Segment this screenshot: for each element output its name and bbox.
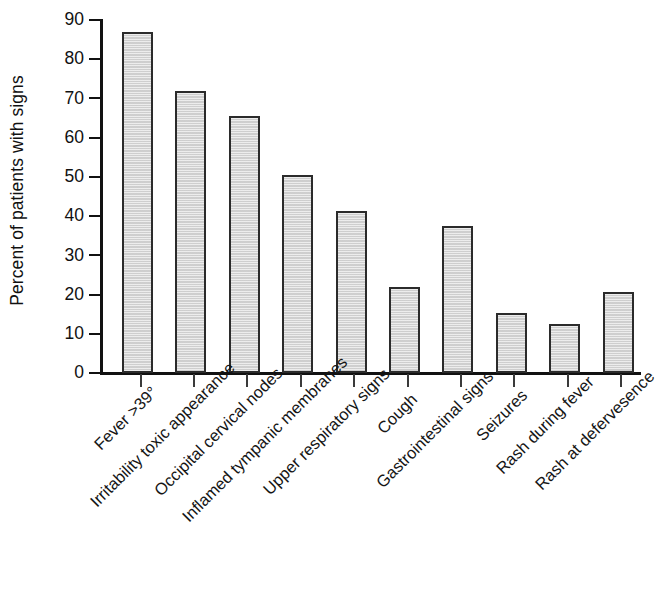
y-tick-label: 40 bbox=[44, 207, 84, 225]
y-tick-mark bbox=[89, 137, 100, 139]
y-tick-mark bbox=[89, 176, 100, 178]
x-tick-mark bbox=[193, 374, 195, 387]
bar bbox=[175, 91, 206, 373]
bar bbox=[122, 32, 153, 373]
x-tick-mark bbox=[620, 374, 622, 387]
y-tick-label: 0 bbox=[44, 364, 84, 382]
y-tick-mark bbox=[89, 97, 100, 99]
y-tick-label-wrapper: 40 bbox=[40, 207, 84, 225]
bar bbox=[603, 292, 634, 373]
bar bbox=[549, 324, 580, 373]
y-tick-label-wrapper: 80 bbox=[40, 50, 84, 68]
x-tick-mark bbox=[567, 374, 569, 387]
bar bbox=[336, 211, 367, 373]
x-tick-mark bbox=[140, 374, 142, 387]
y-tick-label-wrapper: 90 bbox=[40, 11, 84, 29]
y-tick-mark bbox=[89, 215, 100, 217]
y-tick-label: 10 bbox=[44, 325, 84, 343]
y-tick-label-wrapper: 20 bbox=[40, 286, 84, 304]
y-tick-label: 80 bbox=[44, 50, 84, 68]
y-tick-label-wrapper: 0 bbox=[40, 364, 84, 382]
y-tick-label-wrapper: 10 bbox=[40, 325, 84, 343]
y-tick-mark bbox=[89, 254, 100, 256]
bar bbox=[442, 226, 473, 373]
x-tick-mark bbox=[300, 374, 302, 387]
y-tick-label-wrapper: 70 bbox=[40, 89, 84, 107]
bar bbox=[496, 313, 527, 373]
y-tick-label-wrapper: 60 bbox=[40, 129, 84, 147]
y-tick-label: 70 bbox=[44, 90, 84, 108]
y-tick-mark bbox=[89, 294, 100, 296]
bar bbox=[229, 116, 260, 373]
y-tick-mark bbox=[89, 19, 100, 21]
y-tick-label: 60 bbox=[44, 129, 84, 147]
bar bbox=[389, 287, 420, 373]
x-tick-mark bbox=[353, 374, 355, 387]
x-tick-mark bbox=[460, 374, 462, 387]
y-tick-mark bbox=[89, 372, 100, 374]
y-tick-label-wrapper: 50 bbox=[40, 168, 84, 186]
x-axis-label: Rash during fever bbox=[493, 373, 597, 477]
x-tick-mark bbox=[513, 374, 515, 387]
bar bbox=[282, 175, 313, 373]
x-axis-label: Cough bbox=[374, 390, 420, 436]
y-tick-label: 50 bbox=[44, 168, 84, 186]
y-axis-ticks: 0102030405060708090 bbox=[0, 0, 100, 380]
y-tick-label: 20 bbox=[44, 286, 84, 304]
x-tick-mark bbox=[246, 374, 248, 387]
bars-group bbox=[100, 20, 641, 373]
y-tick-mark bbox=[89, 58, 100, 60]
y-tick-label: 90 bbox=[44, 11, 84, 29]
y-tick-label-wrapper: 30 bbox=[40, 246, 84, 264]
y-tick-mark bbox=[89, 333, 100, 335]
x-tick-mark bbox=[407, 374, 409, 387]
y-tick-label: 30 bbox=[44, 247, 84, 265]
